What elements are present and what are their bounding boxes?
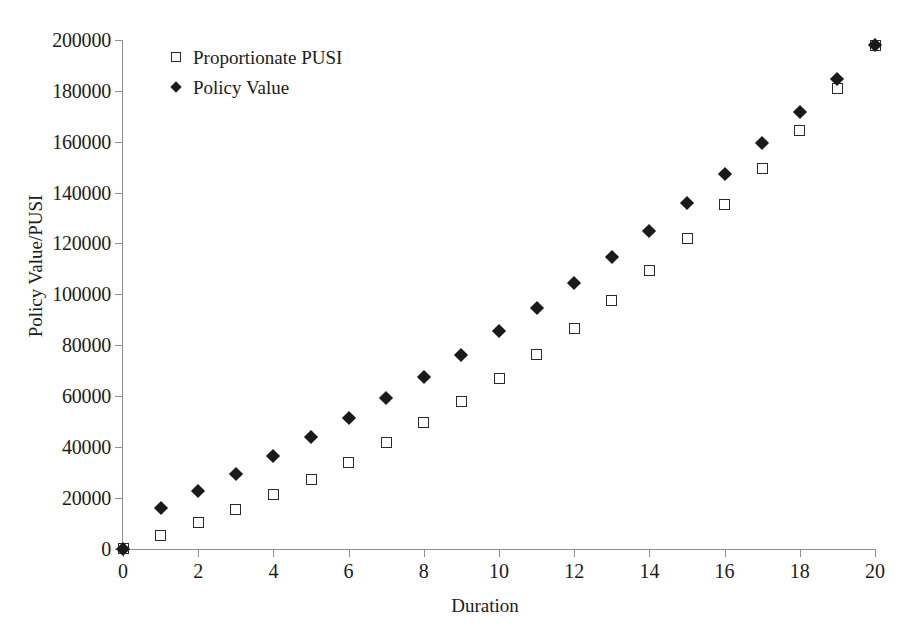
data-point-proportionate-pusi: [719, 199, 730, 210]
data-point-proportionate-pusi: [569, 323, 580, 334]
data-point-policy-value: [191, 484, 205, 498]
data-point-policy-value: [793, 105, 807, 119]
x-tick: [273, 549, 274, 557]
y-tick-label-wrap: 100000: [0, 284, 111, 304]
y-tick-label: 160000: [11, 132, 111, 152]
data-point-policy-value: [304, 430, 318, 444]
x-tick: [198, 549, 199, 557]
data-point-policy-value: [342, 411, 356, 425]
y-tick-label: 40000: [11, 437, 111, 457]
y-tick: [115, 91, 123, 92]
y-tick: [115, 142, 123, 143]
data-point-proportionate-pusi: [155, 530, 166, 541]
y-tick: [115, 447, 123, 448]
y-tick-label-wrap: 60000: [0, 386, 111, 406]
x-tick-label: 4: [243, 560, 303, 582]
y-axis-title: Policy Value/PUSI: [25, 156, 47, 376]
data-point-proportionate-pusi: [193, 517, 204, 528]
y-tick: [115, 498, 123, 499]
x-tick-label: 18: [770, 560, 830, 582]
y-tick-label-wrap: 0: [0, 539, 111, 559]
data-point-policy-value: [154, 501, 168, 515]
plot-area: [123, 40, 875, 549]
y-tick-label-wrap: 180000: [0, 81, 111, 101]
x-tick-label: 20: [845, 560, 905, 582]
data-point-proportionate-pusi: [343, 457, 354, 468]
x-tick-label: 6: [319, 560, 379, 582]
data-point-policy-value: [642, 224, 656, 238]
y-tick-label: 180000: [11, 81, 111, 101]
x-tick: [349, 549, 350, 557]
data-point-policy-value: [454, 347, 468, 361]
data-point-proportionate-pusi: [494, 373, 505, 384]
data-point-policy-value: [417, 370, 431, 384]
x-tick: [574, 549, 575, 557]
y-tick-label-wrap: 120000: [0, 233, 111, 253]
data-point-policy-value: [379, 391, 393, 405]
data-point-policy-value: [567, 276, 581, 290]
data-point-policy-value: [492, 324, 506, 338]
y-tick: [115, 243, 123, 244]
data-point-proportionate-pusi: [230, 504, 241, 515]
y-tick-label-wrap: 80000: [0, 335, 111, 355]
data-point-policy-value: [680, 196, 694, 210]
data-point-proportionate-pusi: [268, 489, 279, 500]
x-tick-label: 2: [168, 560, 228, 582]
data-point-policy-value: [229, 467, 243, 481]
data-point-policy-value: [755, 136, 769, 150]
x-axis-title: Duration: [451, 595, 519, 617]
y-tick-label: 0: [11, 539, 111, 559]
x-tick: [800, 549, 801, 557]
x-tick: [725, 549, 726, 557]
data-point-policy-value: [266, 449, 280, 463]
data-point-proportionate-pusi: [531, 349, 542, 360]
x-tick: [424, 549, 425, 557]
y-tick-label: 200000: [11, 30, 111, 50]
y-tick: [115, 396, 123, 397]
x-tick: [649, 549, 650, 557]
y-tick-label-wrap: 40000: [0, 437, 111, 457]
y-tick: [115, 193, 123, 194]
x-tick-label: 16: [695, 560, 755, 582]
x-tick: [875, 549, 876, 557]
y-tick: [115, 294, 123, 295]
data-point-policy-value: [718, 167, 732, 181]
y-tick: [115, 345, 123, 346]
x-tick: [499, 549, 500, 557]
data-point-proportionate-pusi: [306, 474, 317, 485]
data-point-proportionate-pusi: [757, 163, 768, 174]
data-point-proportionate-pusi: [606, 295, 617, 306]
scatter-chart: 0200004000060000800001000001200001400001…: [0, 0, 905, 638]
y-tick-label-wrap: 20000: [0, 488, 111, 508]
x-tick-label: 0: [93, 560, 153, 582]
x-tick-label: 12: [544, 560, 604, 582]
x-tick-label: 14: [619, 560, 679, 582]
data-point-proportionate-pusi: [456, 396, 467, 407]
data-point-proportionate-pusi: [381, 437, 392, 448]
x-tick-label: 10: [469, 560, 529, 582]
data-point-policy-value: [605, 250, 619, 264]
y-tick-label: 20000: [11, 488, 111, 508]
data-point-policy-value: [530, 301, 544, 315]
y-tick: [115, 40, 123, 41]
y-tick-label-wrap: 140000: [0, 183, 111, 203]
data-point-proportionate-pusi: [682, 233, 693, 244]
y-tick-label: 60000: [11, 386, 111, 406]
y-tick-label-wrap: 160000: [0, 132, 111, 152]
data-point-proportionate-pusi: [644, 265, 655, 276]
data-point-proportionate-pusi: [418, 417, 429, 428]
x-tick-label: 8: [394, 560, 454, 582]
data-point-proportionate-pusi: [794, 125, 805, 136]
y-tick-label-wrap: 200000: [0, 30, 111, 50]
x-axis-title-wrap: Duration: [0, 595, 905, 617]
